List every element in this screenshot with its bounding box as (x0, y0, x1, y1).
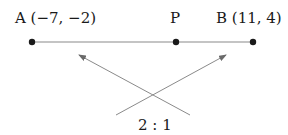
point-p-dot (173, 39, 179, 45)
point-b-label: B (11, 4) (216, 9, 282, 27)
section-diagram: A (−7, −2) P B (11, 4) 2 : 1 (0, 0, 288, 135)
arrow-to-pb-icon (116, 55, 226, 115)
point-p-label: P (170, 9, 180, 27)
arrow-to-ap-icon (79, 55, 190, 115)
ratio-label: 2 : 1 (138, 116, 172, 134)
point-a-label: A (−7, −2) (14, 9, 96, 27)
point-a-dot (29, 39, 35, 45)
point-b-dot (250, 39, 256, 45)
